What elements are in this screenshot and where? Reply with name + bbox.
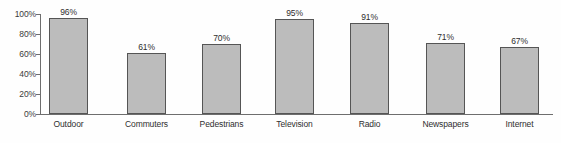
bar-value-label: 67% <box>490 37 549 46</box>
bar-value-label: 61% <box>117 43 176 52</box>
category-label-pedestrians: Pedestrians <box>182 119 261 130</box>
bar-newspapers <box>426 43 465 114</box>
bar-pedestrians <box>202 44 241 114</box>
bar-television <box>275 19 314 114</box>
bar-radio <box>350 23 389 114</box>
bar-value-label: 96% <box>39 8 98 17</box>
bar-value-label: 71% <box>416 33 475 42</box>
x-axis-labels: Outdoor Commuters Pedestrians Television… <box>40 119 553 135</box>
bar-value-label: 70% <box>192 34 251 43</box>
bar-outdoor <box>49 18 88 114</box>
y-tick-label: 80% <box>3 30 36 39</box>
category-label-newspapers: Newspapers <box>406 119 485 130</box>
bar-chart: 100% 80% 60% 40% 20% 0% 96% 61% 70% 95% <box>0 0 561 143</box>
y-tick-label: 0% <box>3 110 36 119</box>
bar-internet <box>500 47 539 114</box>
category-label-radio: Radio <box>330 119 409 130</box>
x-axis-line <box>40 114 553 115</box>
category-label-commuters: Commuters <box>107 119 186 130</box>
category-label-internet: Internet <box>480 119 559 130</box>
y-tick-label: 60% <box>3 50 36 59</box>
bar-value-label: 91% <box>340 13 399 22</box>
category-label-outdoor: Outdoor <box>29 119 108 130</box>
y-tick-label: 100% <box>3 10 36 19</box>
y-tick-label: 20% <box>3 90 36 99</box>
bar-value-label: 95% <box>265 9 324 18</box>
y-tick-label: 40% <box>3 70 36 79</box>
category-label-television: Television <box>255 119 334 130</box>
plot-area: 96% 61% 70% 95% 91% 71% 67% <box>40 14 553 114</box>
bar-commuters <box>127 53 166 114</box>
